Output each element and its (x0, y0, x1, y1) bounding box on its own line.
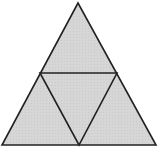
triangle-diagram (0, 0, 167, 157)
outer-triangle (2, 3, 156, 145)
